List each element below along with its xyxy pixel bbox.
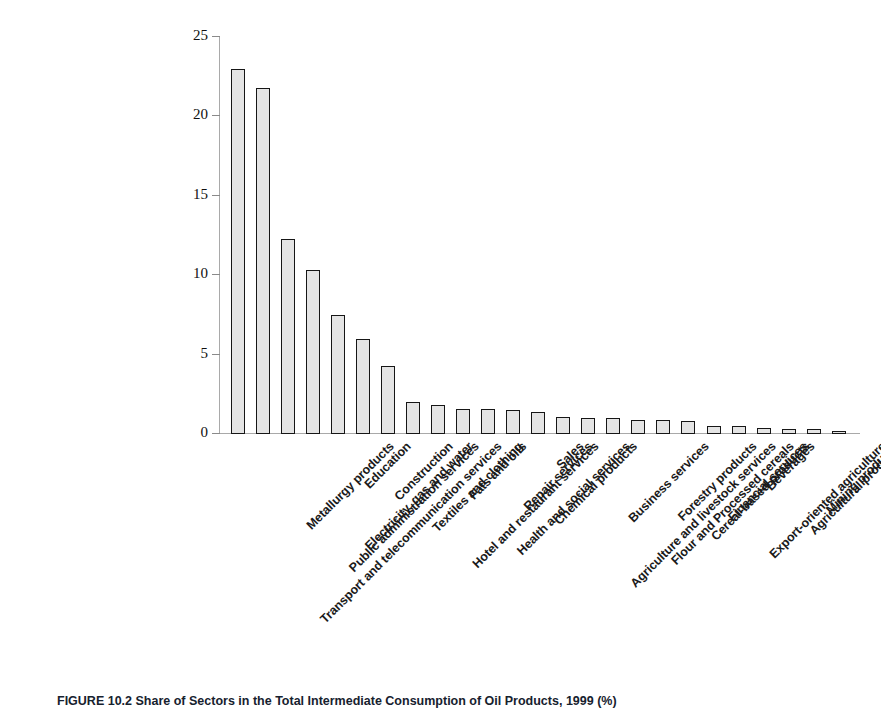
figure-caption-text: Share of Sectors in the Total Intermedia… (136, 694, 617, 708)
bar (506, 410, 520, 434)
y-axis-tick-label: 15 (178, 187, 208, 202)
figure-container: 0510152025 Transport and telecommunicati… (0, 0, 881, 711)
figure-caption: FIGURE 10.2 Share of Sectors in the Tota… (57, 694, 867, 708)
x-axis-category-labels: Transport and telecommunication services… (0, 436, 881, 686)
y-axis-tick-label: 10 (178, 266, 208, 281)
bar (606, 418, 620, 434)
bar (381, 366, 395, 434)
figure-number: FIGURE 10.2 (57, 694, 132, 708)
bar (281, 239, 295, 434)
bar-series (219, 36, 860, 434)
bar (656, 420, 670, 434)
bar (256, 88, 270, 434)
y-axis-tick-label: 5 (178, 346, 208, 361)
bar (356, 339, 370, 434)
bar (757, 428, 771, 434)
y-axis-tick-label: 20 (178, 107, 208, 122)
bar (732, 426, 746, 434)
bar (556, 417, 570, 434)
x-axis-category-label: Agriculture and livestock services (629, 440, 779, 590)
bar (306, 270, 320, 434)
x-axis-category-label: Metallurgy products (304, 440, 396, 532)
bar (782, 429, 796, 434)
bar (681, 421, 695, 434)
bar (807, 429, 821, 434)
bar (406, 402, 420, 434)
bar (832, 431, 846, 434)
bar (531, 412, 545, 434)
bar (431, 405, 445, 434)
bar (707, 426, 721, 434)
bar (331, 315, 345, 434)
x-axis-category-label: Transport and telecommunication services (318, 440, 504, 626)
bar (631, 420, 645, 434)
y-axis-tick-label: 25 (178, 28, 208, 43)
bar (581, 418, 595, 434)
bar (481, 409, 495, 434)
bar (231, 69, 245, 434)
bar (456, 409, 470, 434)
